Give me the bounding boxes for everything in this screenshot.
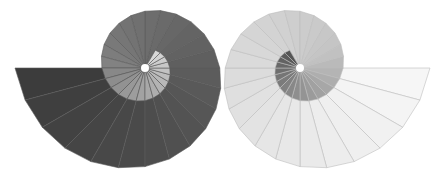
spiral-center-hole bbox=[141, 64, 149, 72]
left-spiral bbox=[15, 11, 221, 168]
spiral-center-hole bbox=[296, 64, 304, 72]
right-spiral bbox=[224, 11, 430, 168]
spiral-figure bbox=[0, 0, 442, 177]
